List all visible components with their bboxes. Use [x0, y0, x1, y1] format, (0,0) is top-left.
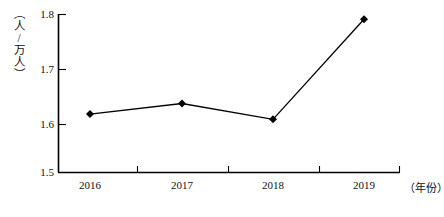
x-tick-label: 2018	[243, 179, 303, 191]
x-axis-unit-label: （年份）	[404, 179, 444, 195]
line-chart: （人/万人） 1.8 1.7 1.6 1.5 2016 2017 2018 20…	[0, 0, 444, 217]
data-markers	[86, 15, 368, 123]
data-line	[90, 19, 364, 119]
x-tick-label: 2016	[60, 179, 120, 191]
x-tick-label: 2017	[152, 179, 212, 191]
x-tick-label: 2019	[334, 179, 394, 191]
data-point-marker	[86, 110, 94, 118]
x-axis-tick-labels: 2016 2017 2018 2019	[0, 179, 444, 199]
data-point-marker	[178, 100, 186, 108]
